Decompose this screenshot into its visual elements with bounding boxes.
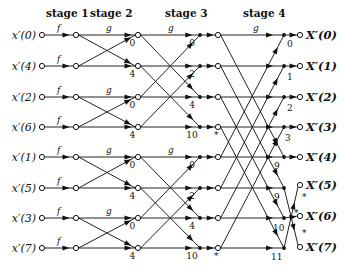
arrowhead-icon bbox=[185, 32, 192, 37]
input-node bbox=[39, 185, 44, 190]
edge-label-f: f bbox=[56, 85, 62, 95]
arrowhead-icon bbox=[62, 32, 69, 37]
edge-label-g: g bbox=[106, 23, 112, 33]
stage3-node bbox=[215, 124, 220, 129]
twiddle-label: 4 bbox=[129, 130, 135, 140]
input-label: x′(4) bbox=[12, 60, 36, 73]
twiddle-label: 9 bbox=[274, 161, 280, 171]
twiddle-label: 10 bbox=[273, 223, 285, 233]
output-label: X′(5) bbox=[305, 178, 337, 192]
conjugate-mark: * bbox=[214, 251, 219, 261]
stage-labels: stage 1stage 2stage 3stage 4 bbox=[46, 7, 286, 19]
node-dot bbox=[198, 64, 202, 68]
node-dot bbox=[282, 155, 286, 159]
conjugate-mark: * bbox=[302, 192, 307, 202]
arrowhead-icon bbox=[185, 245, 192, 250]
stage1-node bbox=[73, 185, 78, 190]
node-dot bbox=[198, 155, 202, 159]
twiddle-label: 2 bbox=[189, 69, 195, 79]
edge-label-f: f bbox=[56, 176, 62, 186]
node-dot bbox=[282, 64, 286, 68]
edge-label-g: g bbox=[106, 206, 112, 216]
input-label: x′(6) bbox=[12, 121, 36, 134]
arrowhead-icon bbox=[125, 154, 132, 159]
edge-label-g: g bbox=[168, 23, 174, 33]
twiddle-label: 10 bbox=[186, 130, 198, 140]
stage2-node bbox=[135, 185, 140, 190]
twiddle-label: 4 bbox=[129, 191, 135, 201]
twiddle-label: 0 bbox=[189, 38, 195, 48]
output-label: X′(4) bbox=[305, 150, 337, 164]
node-dot bbox=[198, 125, 202, 129]
edge-label-f: f bbox=[56, 23, 62, 33]
input-label: x′(7) bbox=[12, 242, 36, 255]
twiddle-label: 4 bbox=[189, 221, 195, 231]
node-dot bbox=[282, 95, 286, 99]
stage3-node bbox=[215, 32, 220, 37]
output-node bbox=[297, 32, 302, 37]
twiddle-label: 3 bbox=[285, 133, 291, 143]
output-node bbox=[297, 63, 302, 68]
arrowhead-icon bbox=[266, 94, 273, 99]
twiddle-label: 0 bbox=[189, 160, 195, 170]
stage1-node bbox=[73, 215, 78, 220]
stage2-node bbox=[135, 124, 140, 129]
node-dot bbox=[282, 246, 286, 250]
twiddle-label: 0 bbox=[129, 221, 135, 231]
output-node bbox=[297, 182, 302, 187]
stage1-node bbox=[73, 124, 78, 129]
stage2-node bbox=[135, 63, 140, 68]
twiddle-label: 0 bbox=[129, 38, 135, 48]
input-label: x′(5) bbox=[12, 182, 36, 195]
stage-label-2: stage 2 bbox=[90, 7, 133, 19]
twiddle-label: 0 bbox=[129, 100, 135, 110]
arrowhead-icon bbox=[207, 185, 214, 190]
edges bbox=[45, 35, 298, 248]
arrowhead-icon bbox=[125, 185, 132, 190]
output-label: X′(3) bbox=[305, 120, 337, 134]
node-dot bbox=[198, 95, 202, 99]
stage2-node bbox=[135, 94, 140, 99]
edge-label-g: g bbox=[168, 145, 174, 155]
arrowhead-icon bbox=[272, 108, 280, 117]
stage1-node bbox=[73, 245, 78, 250]
twiddle-label: 1 bbox=[287, 72, 293, 82]
arrowhead-icon bbox=[185, 154, 192, 159]
arrowhead-icon bbox=[62, 215, 69, 220]
output-node bbox=[297, 94, 302, 99]
twiddle-label: 0 bbox=[129, 160, 135, 170]
arrowhead-icon bbox=[62, 124, 69, 129]
input-label: x′(0) bbox=[12, 29, 36, 42]
input-node bbox=[39, 32, 44, 37]
arrowhead-icon bbox=[185, 94, 192, 99]
arrowhead-icon bbox=[62, 94, 69, 99]
stage3-node bbox=[215, 154, 220, 159]
output-label: X′(6) bbox=[305, 209, 337, 223]
edge-label-f: f bbox=[56, 236, 62, 246]
stage-label-3: stage 3 bbox=[165, 7, 208, 19]
arrowhead-icon bbox=[125, 32, 132, 37]
stage2-node bbox=[135, 32, 140, 37]
stage2-node bbox=[135, 245, 140, 250]
arrowhead-icon bbox=[290, 154, 297, 159]
edge-label-g: g bbox=[253, 23, 259, 33]
input-node bbox=[39, 94, 44, 99]
input-node bbox=[39, 124, 44, 129]
arrowhead-icon bbox=[266, 63, 273, 68]
arrowhead-icon bbox=[185, 215, 192, 220]
arrowhead-icon bbox=[272, 46, 280, 55]
input-node bbox=[39, 245, 44, 250]
edge-label-f: f bbox=[56, 206, 62, 216]
arrowhead-icon bbox=[290, 94, 297, 99]
stage3-node bbox=[215, 215, 220, 220]
stage3-node bbox=[215, 63, 220, 68]
edge-label-f: f bbox=[56, 54, 62, 64]
stage1-node bbox=[73, 154, 78, 159]
node-dot bbox=[198, 216, 202, 220]
arrowhead-icon bbox=[125, 245, 132, 250]
output-label: X′(0) bbox=[305, 28, 337, 42]
input-label: x′(1) bbox=[12, 151, 36, 164]
stage1-node bbox=[73, 94, 78, 99]
arrowhead-icon bbox=[207, 245, 214, 250]
arrowhead-icon bbox=[207, 63, 214, 68]
